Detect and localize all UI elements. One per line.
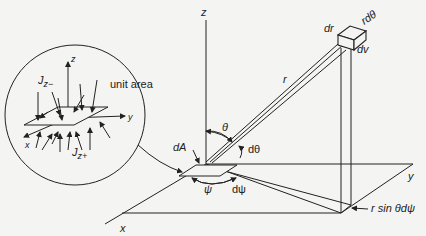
y-axis-label: y (407, 170, 415, 182)
dr-label: dr (324, 22, 335, 34)
r-label: r (283, 73, 288, 85)
dA-pointer (193, 150, 199, 163)
x-axis-label: x (119, 222, 126, 234)
theta-arc (206, 131, 232, 142)
rdtheta-label: rdθ (358, 8, 378, 27)
dpsi-label: dψ (232, 183, 246, 195)
rsin-pointer (352, 208, 368, 209)
jz-minus-label: Jz− (37, 74, 53, 89)
z-axis-label: z (200, 6, 207, 18)
ray-cone (206, 44, 346, 163)
dv-label: dv (357, 43, 370, 55)
radiation-geometry-diagram: z y x dA θ dθ ψ dψ r dr rdθ dv r sin θdψ (0, 0, 426, 236)
inset-y-label: y (127, 112, 133, 122)
inset-x-label: x (24, 140, 30, 150)
dA-label: dA (173, 141, 186, 153)
dA-element (179, 165, 237, 176)
theta-label: θ (222, 121, 228, 133)
unit-area-inset: z y x unit area Jz− Jz+ (5, 45, 154, 185)
jz-plus-label: Jz+ (71, 146, 87, 161)
psi-label: ψ (204, 183, 212, 195)
drop-lines (341, 44, 351, 213)
dtheta-arrow (239, 146, 242, 158)
dtheta-label: dθ (248, 143, 260, 155)
rsinthetadpsi-label: r sin θdψ (371, 202, 415, 214)
inset-z-label: z (70, 54, 76, 64)
inset-unit-plate (24, 107, 108, 125)
unit-area-label: unit area (110, 78, 154, 90)
